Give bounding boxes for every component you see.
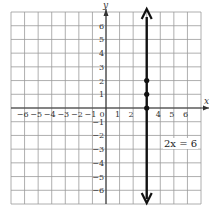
x-axis-arrow-icon xyxy=(203,106,209,111)
coordinate-plane: −6−5−4−3−2−1012456654321−1−2−3−4−5−6 xyxy=(0,0,214,206)
y-tick-label: 4 xyxy=(99,49,104,58)
data-point xyxy=(144,105,149,110)
x-tick-label: 4 xyxy=(156,110,161,119)
y-tick-label: −3 xyxy=(92,145,104,154)
x-tick-label: 2 xyxy=(129,110,134,119)
y-tick-label: −6 xyxy=(92,186,104,195)
x-tick-label: 5 xyxy=(169,110,174,119)
x-tick-label: −4 xyxy=(44,110,56,119)
equation-label: 2x = 6 xyxy=(163,138,198,149)
x-tick-label: −3 xyxy=(57,110,69,119)
x-tick-label: −2 xyxy=(71,110,83,119)
y-tick-label: 6 xyxy=(99,22,104,31)
y-tick-label: 5 xyxy=(99,35,104,44)
y-tick-label: −4 xyxy=(92,159,104,168)
y-axis-arrow-icon xyxy=(104,9,109,16)
x-tick-label: 6 xyxy=(183,110,188,119)
x-tick-label: −5 xyxy=(30,110,42,119)
y-axis-label: y xyxy=(103,0,108,10)
y-tick-label: −5 xyxy=(92,173,104,182)
y-tick-label: −2 xyxy=(92,131,104,140)
y-tick-label: −1 xyxy=(92,118,104,127)
y-tick-label: 1 xyxy=(99,90,104,99)
x-tick-label: 1 xyxy=(115,110,120,119)
x-axis-label: x xyxy=(204,96,209,106)
data-point xyxy=(144,92,149,97)
y-tick-label: 3 xyxy=(99,63,104,72)
y-tick-label: 2 xyxy=(99,77,104,86)
x-tick-label: −6 xyxy=(17,110,29,119)
data-point xyxy=(144,78,149,83)
